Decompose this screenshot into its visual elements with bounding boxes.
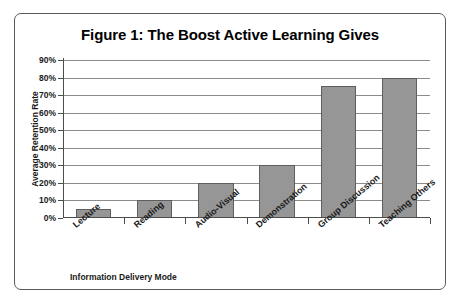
y-axis-tick-label: 0% [44, 213, 56, 223]
gridline [63, 113, 430, 114]
y-axis-tick-label: 20% [39, 178, 56, 188]
gridline [63, 165, 430, 166]
x-axis-line [63, 217, 430, 218]
y-axis-tick-label: 60% [39, 108, 56, 118]
gridline [63, 200, 430, 201]
gridline [63, 78, 430, 79]
y-axis-tick-label: 70% [39, 90, 56, 100]
gridline [63, 130, 430, 131]
plot-background [63, 60, 430, 218]
y-axis-title: Average Retention Rate [28, 60, 42, 218]
plot-area: 0%10%20%30%40%50%60%70%80%90% [63, 60, 430, 218]
x-axis-title: Information Delivery Mode [70, 272, 177, 282]
y-axis-tick-label: 90% [39, 55, 56, 65]
x-axis-tick [430, 218, 431, 224]
y-axis-tick-label: 10% [39, 195, 56, 205]
y-axis-line [63, 58, 64, 218]
y-axis-title-text: Average Retention Rate [30, 91, 40, 187]
gridline [63, 95, 430, 96]
figure-card: Figure 1: The Boost Active Learning Give… [14, 13, 446, 290]
chart-title: Figure 1: The Boost Active Learning Give… [15, 26, 445, 43]
y-axis-tick [58, 218, 63, 219]
gridline [63, 148, 430, 149]
x-axis-labels: LectureReadingAudio-VisualDemonstrationG… [63, 220, 430, 270]
y-axis-tick-label: 40% [39, 143, 56, 153]
y-axis-tick-label: 80% [39, 73, 56, 83]
gridline [63, 60, 430, 61]
y-axis-tick-label: 50% [39, 125, 56, 135]
y-axis-tick-label: 30% [39, 160, 56, 170]
